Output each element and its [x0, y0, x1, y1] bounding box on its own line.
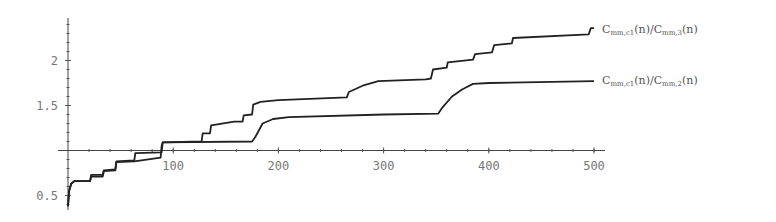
curve-ratio-c1-over-2: [68, 81, 594, 206]
legend: Cmm,c1(n)/Cmm,3(n) Cmm,c1(n)/Cmm,2(n): [602, 23, 698, 88]
x-tick-label: 100: [162, 159, 184, 173]
y-axis: 0.51.52: [36, 18, 71, 210]
x-tick-label: 300: [373, 159, 395, 173]
plot-curves: [68, 28, 594, 206]
curve-ratio-c1-over-3: [68, 28, 594, 206]
legend-label-series-1: Cmm,c1(n)/Cmm,2(n): [602, 74, 698, 88]
x-tick-label: 500: [583, 159, 605, 173]
x-tick-label: 400: [478, 159, 500, 173]
y-tick-label: 0.5: [36, 189, 58, 203]
x-tick-label: 200: [268, 159, 290, 173]
legend-label-series-0: Cmm,c1(n)/Cmm,3(n): [602, 23, 698, 37]
y-tick-label: 2: [51, 54, 58, 68]
chart: 0.51.52 100200300400500 Cmm,c1(n)/Cmm,3(…: [0, 0, 776, 222]
y-tick-label: 1.5: [36, 99, 58, 113]
